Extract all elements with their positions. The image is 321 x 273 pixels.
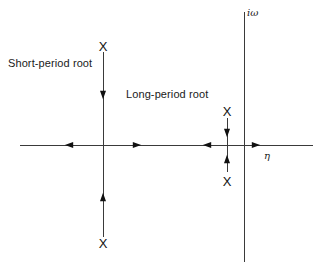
long-period-locus-pole-marker-1: X [223,175,232,188]
real-axis-arrow-3 [252,142,260,148]
i-omega-axis-label: iω [247,8,258,18]
long-period-locus-arrow-1 [224,155,230,163]
short-period-root-label: Short-period root [8,58,92,69]
short-period-locus-pole-marker-0: X [99,40,108,53]
real-axis-arrow-1 [133,142,141,148]
root-locus-plot-canvas [0,0,321,273]
short-period-locus-arrow-0 [100,91,106,99]
long-period-root-label: Long-period root [126,89,208,100]
root-locus-figure: Short-period root Long-period root η iω … [0,0,321,273]
long-period-locus-arrow-0 [224,129,230,137]
short-period-locus-arrow-1 [100,193,106,201]
eta-axis-label: η [264,151,270,161]
long-period-locus-pole-marker-0: X [223,105,232,118]
real-axis-arrow-0 [65,142,73,148]
short-period-locus-pole-marker-1: X [99,237,108,250]
real-axis-arrow-2 [203,142,211,148]
